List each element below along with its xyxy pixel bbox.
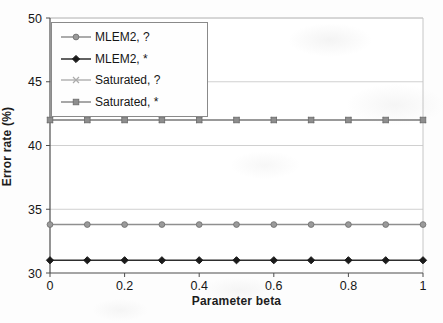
square-marker-icon xyxy=(47,117,53,123)
square-marker-icon xyxy=(122,117,128,123)
circle-marker-icon xyxy=(196,222,202,228)
circle-marker-icon xyxy=(271,222,277,228)
circle-marker-icon xyxy=(234,222,240,228)
legend-label: Saturated, * xyxy=(95,95,158,109)
diamond-marker-icon xyxy=(72,55,79,62)
legend-label: Saturated, ? xyxy=(95,73,160,87)
legend-swatch xyxy=(60,95,92,109)
y-tick-label: 35 xyxy=(28,203,42,217)
square-marker-icon xyxy=(159,117,165,123)
square-marker-icon xyxy=(271,117,277,123)
legend-swatch xyxy=(60,73,92,87)
square-marker-icon xyxy=(420,117,426,123)
legend-label: MLEM2, * xyxy=(95,52,148,66)
y-tick-label: 40 xyxy=(28,139,42,153)
circle-marker-icon xyxy=(159,222,165,228)
circle-marker-icon xyxy=(383,222,389,228)
x-tick-label: 0.8 xyxy=(340,279,357,293)
legend-item: MLEM2, * xyxy=(60,48,207,69)
legend-label: MLEM2, ? xyxy=(95,30,150,44)
circle-marker-icon xyxy=(346,222,352,228)
x-tick-label: 0.2 xyxy=(116,279,133,293)
circle-marker-icon xyxy=(122,222,128,228)
circle-marker-icon xyxy=(308,222,314,228)
square-marker-icon xyxy=(85,117,91,123)
x-axis-title: Parameter beta xyxy=(50,294,423,308)
square-marker-icon xyxy=(196,117,202,123)
legend: MLEM2, ?MLEM2, *Saturated, ?Saturated, * xyxy=(51,22,208,117)
square-marker-icon xyxy=(73,99,79,105)
error-rate-vs-beta-chart: 303540455000.20.40.60.81 Error rate (%) … xyxy=(0,0,443,323)
legend-swatch xyxy=(60,52,92,66)
square-marker-icon xyxy=(383,117,389,123)
x-tick-label: 1 xyxy=(420,279,427,293)
circle-marker-icon xyxy=(73,34,79,40)
circle-marker-icon xyxy=(84,222,90,228)
x-tick-label: 0.4 xyxy=(191,279,208,293)
legend-swatch xyxy=(60,30,92,44)
y-tick-label: 45 xyxy=(28,75,42,89)
square-marker-icon xyxy=(234,117,240,123)
circle-marker-icon xyxy=(47,222,53,228)
x-tick-label: 0 xyxy=(47,279,54,293)
x-tick-label: 0.6 xyxy=(265,279,282,293)
legend-item: Saturated, ? xyxy=(60,70,207,91)
y-axis-title: Error rate (%) xyxy=(0,82,15,212)
square-marker-icon xyxy=(346,117,352,123)
y-tick-label: 30 xyxy=(28,267,42,281)
y-tick-label: 50 xyxy=(28,12,42,26)
legend-item: Saturated, * xyxy=(60,92,207,113)
legend-item: MLEM2, ? xyxy=(60,26,207,47)
circle-marker-icon xyxy=(420,222,426,228)
square-marker-icon xyxy=(308,117,314,123)
